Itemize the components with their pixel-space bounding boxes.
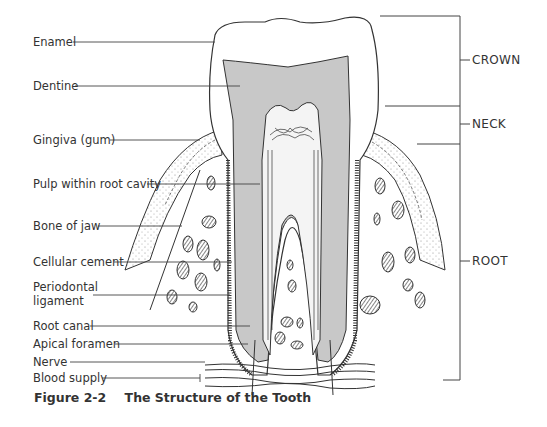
figure-title: The Structure of the Tooth bbox=[125, 390, 312, 405]
label-dentine: Dentine bbox=[33, 79, 78, 93]
label-blood-supply: Blood supply bbox=[33, 371, 107, 385]
tooth-body bbox=[210, 17, 379, 395]
label-periodontal-line1: Periodontal bbox=[33, 280, 98, 294]
label-nerve: Nerve bbox=[33, 355, 67, 369]
gingiva-right bbox=[362, 130, 445, 270]
nerve-blood-vessels bbox=[205, 364, 375, 389]
label-periodontal-line2: ligament bbox=[33, 294, 84, 308]
label-apical-foramen: Apical foramen bbox=[33, 337, 120, 351]
label-neck: NECK bbox=[472, 117, 506, 131]
tooth-diagram bbox=[0, 0, 547, 427]
label-bone: Bone of jaw bbox=[33, 219, 100, 233]
figure-caption: Figure 2-2 The Structure of the Tooth bbox=[34, 390, 311, 405]
label-root: ROOT bbox=[472, 254, 508, 268]
pulp-chamber bbox=[262, 102, 322, 355]
label-enamel: Enamel bbox=[33, 35, 76, 49]
label-gingiva: Gingiva (gum) bbox=[33, 133, 115, 147]
label-crown: CROWN bbox=[472, 53, 521, 67]
figure-number: Figure 2-2 bbox=[34, 390, 106, 405]
label-root-canal: Root canal bbox=[33, 319, 94, 333]
label-cement: Cellular cement bbox=[33, 255, 124, 269]
label-pulp: Pulp within root cavity bbox=[33, 177, 161, 191]
